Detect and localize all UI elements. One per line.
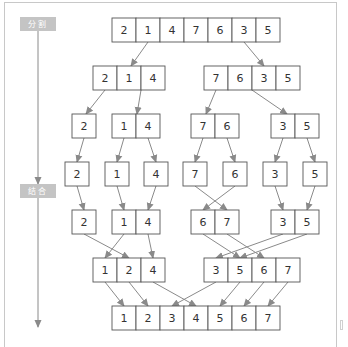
- array-cell: 1: [93, 258, 117, 282]
- arrow-edge: [307, 138, 315, 162]
- array-r3d: 7: [183, 162, 207, 186]
- array-cell: 3: [204, 258, 228, 282]
- svg-text:1: 1: [102, 264, 109, 277]
- arrow-edge: [148, 234, 153, 258]
- arrow-edge: [206, 90, 216, 114]
- svg-text:1: 1: [114, 168, 121, 181]
- svg-text:5: 5: [237, 264, 244, 277]
- array-cell: 2: [136, 306, 160, 330]
- arrow-edge: [129, 282, 148, 306]
- svg-text:7: 7: [285, 264, 292, 277]
- array-cell: 5: [295, 210, 319, 234]
- svg-text:3: 3: [280, 216, 287, 229]
- array-r3g: 5: [303, 162, 327, 186]
- array-r2d: 35: [271, 114, 319, 138]
- arrow-edge: [220, 282, 240, 306]
- arrow-edge: [172, 282, 216, 306]
- array-r5b: 3567: [204, 258, 300, 282]
- array-cell: 7: [276, 258, 300, 282]
- array-cell: 3: [263, 162, 287, 186]
- arrow-edge: [148, 138, 156, 162]
- svg-text:7: 7: [224, 216, 231, 229]
- array-r2b: 14: [112, 114, 160, 138]
- svg-text:1: 1: [121, 120, 128, 133]
- phase-label-divide: 分割: [20, 17, 56, 31]
- svg-text:4: 4: [150, 72, 157, 85]
- array-cell: 7: [183, 162, 207, 186]
- arrays: 2147635214763521476352147635214673512435…: [65, 18, 327, 330]
- array-cell: 3: [232, 18, 256, 42]
- array-r3f: 3: [263, 162, 287, 186]
- array-cell: 7: [184, 18, 208, 42]
- svg-text:1: 1: [121, 312, 128, 325]
- arrow-edge: [153, 282, 196, 306]
- arrow-edge: [252, 90, 287, 114]
- array-cell: 3: [252, 66, 276, 90]
- array-cell: 4: [160, 18, 184, 42]
- array-r4d: 35: [271, 210, 319, 234]
- svg-text:4: 4: [145, 216, 152, 229]
- svg-text:7: 7: [193, 24, 200, 37]
- array-r3a: 2: [65, 162, 89, 186]
- arrow-edge: [131, 42, 148, 66]
- array-cell: 2: [93, 66, 117, 90]
- array-cell: 5: [303, 162, 327, 186]
- array-cell: 2: [65, 162, 89, 186]
- array-cell: 4: [141, 66, 165, 90]
- svg-text:3: 3: [280, 120, 287, 133]
- arrow-edge: [195, 138, 203, 162]
- svg-text:2: 2: [74, 168, 81, 181]
- array-cell: 4: [144, 162, 168, 186]
- arrow-edge: [227, 234, 264, 258]
- array-cell: 6: [215, 114, 239, 138]
- array-cell: 2: [72, 114, 96, 138]
- svg-text:3: 3: [272, 168, 279, 181]
- arrow-edge: [84, 234, 129, 258]
- array-r3c: 4: [144, 162, 168, 186]
- array-cell: 2: [117, 258, 141, 282]
- svg-text:1: 1: [126, 72, 133, 85]
- svg-text:4: 4: [193, 312, 200, 325]
- array-cell: 1: [117, 66, 141, 90]
- svg-text:1: 1: [121, 216, 128, 229]
- array-cell: 7: [191, 114, 215, 138]
- array-cell: 5: [256, 18, 280, 42]
- svg-text:5: 5: [265, 24, 272, 37]
- svg-text:2: 2: [121, 24, 128, 37]
- svg-text:7: 7: [192, 168, 199, 181]
- svg-text:4: 4: [150, 264, 157, 277]
- arrow-edge: [137, 90, 141, 114]
- array-r2c: 76: [191, 114, 239, 138]
- svg-text:3: 3: [241, 24, 248, 37]
- svg-text:2: 2: [102, 72, 109, 85]
- array-cell: 7: [215, 210, 239, 234]
- array-cell: 7: [204, 66, 228, 90]
- arrow-edge: [77, 138, 84, 162]
- arrow-edge: [203, 186, 235, 210]
- arrow-edge: [307, 186, 315, 210]
- array-cell: 5: [276, 66, 300, 90]
- array-cell: 4: [136, 210, 160, 234]
- svg-text:分割: 分割: [28, 19, 48, 29]
- array-r4b: 14: [112, 210, 160, 234]
- svg-text:7: 7: [213, 72, 220, 85]
- svg-text:4: 4: [145, 120, 152, 133]
- array-r3b: 1: [105, 162, 129, 186]
- array-r2a: 2: [72, 114, 96, 138]
- svg-text:6: 6: [217, 24, 224, 37]
- array-cell: 6: [223, 162, 247, 186]
- array-cell: 3: [160, 306, 184, 330]
- array-cell: 3: [271, 210, 295, 234]
- array-r4a: 2: [72, 210, 96, 234]
- array-r3e: 6: [223, 162, 247, 186]
- arrow-edge: [244, 282, 264, 306]
- arrow-edge: [268, 282, 288, 306]
- arrow-edge: [203, 234, 240, 258]
- svg-text:6: 6: [241, 312, 248, 325]
- array-cell: 6: [232, 306, 256, 330]
- array-cell: 5: [295, 114, 319, 138]
- array-r5a: 124: [93, 258, 165, 282]
- array-r4c: 67: [191, 210, 239, 234]
- svg-text:5: 5: [217, 312, 224, 325]
